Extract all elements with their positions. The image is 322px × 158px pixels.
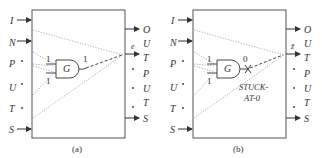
fault-label-line1: STUCK- [239, 82, 268, 92]
output-label: T [143, 97, 150, 108]
gate-input-value: 1 [46, 76, 51, 86]
output-label: U [143, 38, 151, 49]
circuit-box [32, 10, 125, 138]
output-label: O [143, 24, 150, 35]
input-label: T [170, 103, 177, 114]
output-label: U [304, 38, 312, 49]
input-label: S [170, 124, 175, 135]
input-label: P [169, 58, 176, 69]
output-signal-label: e [131, 42, 135, 51]
panel-caption: (a) [72, 144, 82, 154]
output-label: O [304, 24, 311, 35]
input-label: P [8, 58, 15, 69]
input-label: N [8, 37, 17, 48]
panel-b: I N P U T S O U T P U T S z̄ [169, 10, 312, 154]
circuit-box [193, 10, 286, 138]
gate-input-value: 1 [207, 76, 212, 86]
gate-output-value: 0 [243, 54, 248, 64]
gate-label: G [63, 63, 70, 74]
gate-input-value: 1 [46, 54, 51, 64]
input-label: I [170, 15, 175, 26]
output-label: S [304, 113, 309, 124]
gate-input-value: 1 [207, 54, 212, 64]
output-label: P [303, 68, 310, 79]
input-label: U [9, 82, 17, 93]
input-label: T [9, 103, 16, 114]
panel-a: I N P U T S O U T P U T S e [8, 10, 151, 154]
output-label: T [304, 52, 311, 63]
panel-caption: (b) [233, 144, 244, 154]
output-label: T [304, 97, 311, 108]
output-signal-label: z̄ [290, 42, 295, 51]
output-label: U [143, 83, 151, 94]
output-label: U [304, 83, 312, 94]
input-label: I [9, 15, 14, 26]
input-label: U [170, 82, 178, 93]
input-label: S [9, 124, 14, 135]
input-label: N [169, 37, 178, 48]
gate-label: G [224, 63, 231, 74]
gate-output-value: 1 [83, 54, 88, 64]
stuck-at-fault-diagram: I N P U T S O U T P U T S e [0, 0, 322, 158]
output-label: T [143, 52, 150, 63]
output-label: P [142, 68, 149, 79]
output-label: S [143, 113, 148, 124]
fault-label-line2: AT-0 [243, 93, 261, 103]
